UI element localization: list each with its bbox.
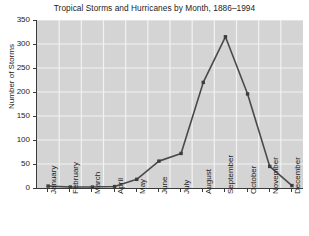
x-tick-label: December — [294, 157, 302, 194]
x-tick-label: May — [139, 179, 147, 194]
chart-title: Tropical Storms and Hurricanes by Month,… — [0, 3, 309, 13]
x-tick-mark — [291, 189, 292, 192]
data-point-marker — [202, 81, 205, 84]
y-tick-label: 200 — [17, 88, 30, 96]
x-tick-label: June — [161, 177, 169, 194]
data-point-marker — [157, 159, 160, 162]
x-tick-mark — [47, 189, 48, 192]
x-tick-label: January — [50, 166, 58, 194]
y-tick-label: 150 — [17, 112, 30, 120]
y-tick-label: 300 — [17, 40, 30, 48]
x-tick-label: April — [117, 178, 125, 194]
chart-container: Tropical Storms and Hurricanes by Month,… — [0, 0, 309, 236]
data-point-marker — [224, 35, 227, 38]
x-tick-label: September — [227, 155, 235, 194]
x-tick-mark — [269, 189, 270, 192]
y-tick-label: 250 — [17, 64, 30, 72]
x-tick-mark — [114, 189, 115, 192]
x-tick-label: February — [72, 162, 80, 194]
x-tick-mark — [180, 189, 181, 192]
x-tick-label: October — [250, 166, 258, 194]
y-tick-label: 0 — [26, 184, 30, 192]
x-tick-mark — [158, 189, 159, 192]
x-tick-mark — [136, 189, 137, 192]
y-tick-label: 350 — [17, 16, 30, 24]
y-tick-label: 50 — [21, 160, 30, 168]
x-axis-ticks: JanuaryFebruaryMarchAprilMayJuneJulyAugu… — [36, 189, 302, 236]
x-tick-label: July — [183, 180, 191, 194]
x-tick-label: August — [205, 169, 213, 194]
x-tick-mark — [247, 189, 248, 192]
y-axis-ticks: 050100150200250300350 — [0, 0, 36, 236]
x-tick-label: March — [94, 172, 102, 194]
data-point-marker — [246, 92, 249, 95]
data-point-marker — [179, 152, 182, 155]
x-tick-label: November — [272, 157, 280, 194]
y-tick-label: 100 — [17, 136, 30, 144]
